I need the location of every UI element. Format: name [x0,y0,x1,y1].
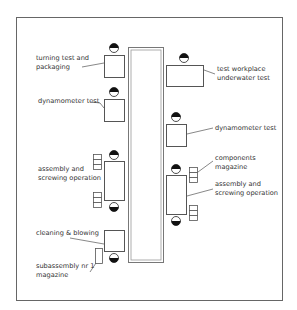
label-underwater-1: test workplace [217,65,265,73]
label-components-1: components [215,154,256,162]
parts-bin-icon [190,168,198,183]
label-turning-1: turning test and [36,54,89,62]
worker-icon [172,113,181,122]
worker-icon [110,88,119,97]
label-dyno-right: dynamometer test [215,124,277,132]
worker-icon [172,165,181,174]
label-components-2: magazine [215,163,247,171]
worker-icon [172,217,181,226]
station-assembly-right: components magazine assembly and screwin… [167,154,279,226]
station-assembly-left: assembly and screwing operation [38,151,125,212]
worker-icon [180,54,189,63]
worker-icon [110,203,119,212]
label-assembly-left-2: screwing operation [38,174,101,182]
label-assembly-left-1: assembly and [38,165,84,173]
label-assembly-right-1: assembly and [215,180,261,188]
central-conveyor [129,48,164,263]
label-turning-2: packaging [36,63,70,71]
label-subassembly-2: magazine [36,271,68,279]
station-dynamometer-left: dynamometer test [38,88,125,122]
parts-bin-icon [190,206,198,221]
label-underwater-2: underwater test [217,74,270,82]
worker-icon [110,151,119,160]
label-dyno-left: dynamometer test [38,97,100,105]
station-turning-test: turning test and packaging [36,44,125,78]
worker-icon [110,254,119,263]
station-dynamometer-right: dynamometer test [167,113,277,147]
worker-icon [110,44,119,53]
label-subassembly-1: subassembly nr 1 [36,262,94,270]
parts-bin-icon [94,155,102,170]
station-cleaning: cleaning & blowing [36,229,125,263]
station-underwater-test: test workplace underwater test [167,54,271,87]
station-subassembly-magazine: subassembly nr 1 magazine [36,249,103,280]
parts-bin-icon [94,193,102,208]
layout-diagram: turning test and packaging dynamometer t… [0,0,297,310]
label-assembly-right-2: screwing operation [215,189,278,197]
label-cleaning: cleaning & blowing [36,229,99,237]
